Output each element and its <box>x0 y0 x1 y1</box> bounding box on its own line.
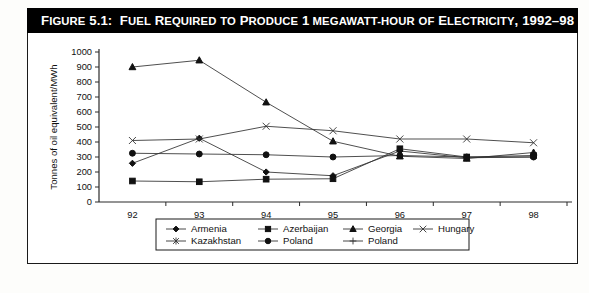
data-point-square <box>130 178 136 184</box>
data-point-triangle <box>330 138 337 144</box>
line-chart: 01002003004005006007008009001000 9293949… <box>27 33 578 264</box>
legend-label: Kazakhstan <box>191 235 241 246</box>
y-tick-label: 0 <box>87 197 92 207</box>
x-tick-label: 92 <box>127 210 137 220</box>
y-axis: 01002003004005006007008009001000 <box>71 47 99 207</box>
data-point-circle <box>531 154 537 160</box>
legend-label: Georgia <box>368 223 403 234</box>
legend-label: Azerbaijan <box>283 223 328 234</box>
data-point-square <box>263 176 269 182</box>
figure-title: FIGURE 5.1: FUEL REQUIRED TO PRODUCE 1 M… <box>41 8 574 33</box>
data-point-square <box>330 176 336 182</box>
data-point-circle <box>330 154 336 160</box>
data-point-diamond <box>263 169 269 175</box>
series-azerbaijan-1 <box>130 146 537 185</box>
plot-area: 01002003004005006007008009001000 9293949… <box>27 33 578 264</box>
y-tick-label: 900 <box>76 62 92 72</box>
y-axis-title: Tonnes of oil equivalent/MWh <box>48 64 59 189</box>
chart-legend: ArmeniaAzerbaijanGeorgiaHungaryKazakhsta… <box>156 219 474 250</box>
data-point-square <box>196 179 202 185</box>
data-point-circle <box>196 151 202 157</box>
data-point-square <box>397 146 403 152</box>
legend-label: Poland <box>368 235 398 246</box>
legend-marker-square <box>265 226 270 231</box>
y-tick-label: 1000 <box>71 47 92 57</box>
data-point-circle <box>397 153 403 159</box>
figure-container: FIGURE 5.1: FUEL REQUIRED TO PRODUCE 1 M… <box>0 0 589 293</box>
legend-label: Armenia <box>191 223 227 234</box>
y-tick-label: 100 <box>76 182 92 192</box>
series-georgia-2 <box>129 57 537 161</box>
data-point-circle <box>263 152 269 158</box>
y-tick-label: 500 <box>76 122 92 132</box>
series-group <box>129 57 537 185</box>
y-tick-label: 700 <box>76 92 92 102</box>
data-point-triangle <box>196 57 203 63</box>
y-tick-label: 800 <box>76 77 92 87</box>
data-point-triangle <box>263 99 270 105</box>
legend-label: Poland <box>283 235 313 246</box>
series-poland-5 <box>129 150 536 160</box>
data-point-circle <box>464 154 470 160</box>
legend-label: Hungary <box>438 223 474 234</box>
y-tick-label: 400 <box>76 137 92 147</box>
y-tick-label: 600 <box>76 107 92 117</box>
figure-title-bar: FIGURE 5.1: FUEL REQUIRED TO PRODUCE 1 M… <box>27 8 578 33</box>
data-point-diamond <box>129 160 135 166</box>
y-tick-label: 200 <box>76 167 92 177</box>
y-tick-label: 300 <box>76 152 92 162</box>
data-point-circle <box>129 150 135 156</box>
x-axis: 92939495969798 <box>99 202 572 220</box>
y-axis-label: Tonnes of oil equivalent/MWh <box>48 64 59 189</box>
legend-marker-circle <box>265 238 271 244</box>
x-tick-label: 98 <box>528 210 538 220</box>
